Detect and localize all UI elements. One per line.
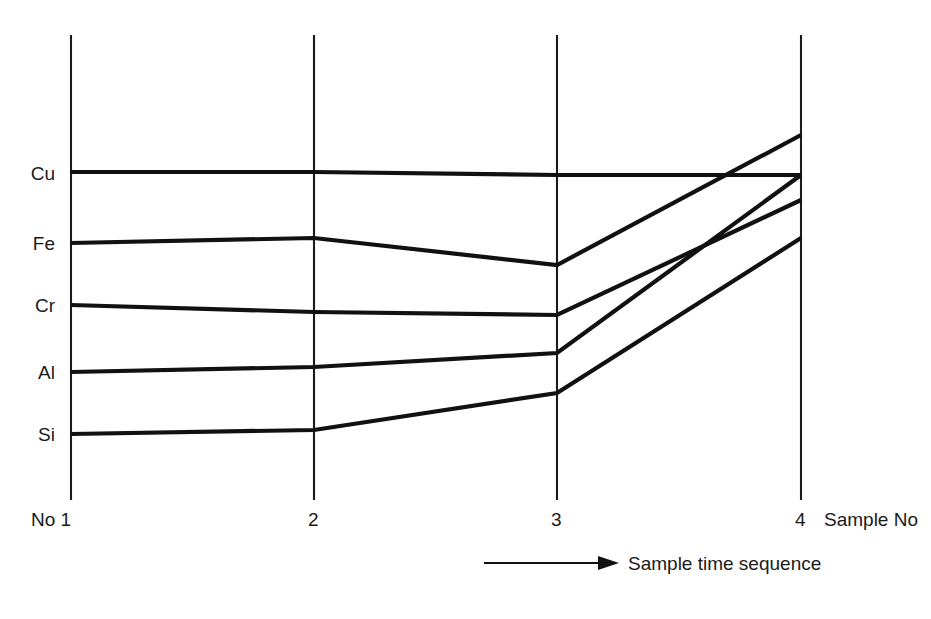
x-axis-title: Sample No xyxy=(824,510,918,529)
time-sequence-arrow xyxy=(484,556,619,570)
chart-figure: Cu Fe Cr Al Si No 1 2 3 4 Sample No Samp… xyxy=(0,0,931,619)
y-label-al: Al xyxy=(9,363,55,382)
x-tick-label-3: 3 xyxy=(551,510,562,529)
y-label-fe: Fe xyxy=(9,234,55,253)
series-line-cu xyxy=(71,172,801,175)
series-line-cr xyxy=(71,200,801,315)
x-tick-label-4: 4 xyxy=(795,510,806,529)
time-sequence-label: Sample time sequence xyxy=(628,554,821,573)
y-label-si: Si xyxy=(9,425,55,444)
chart-plot-area xyxy=(0,0,931,619)
series-line-si xyxy=(71,238,801,434)
y-label-cr: Cr xyxy=(9,296,55,315)
y-label-cu: Cu xyxy=(9,164,55,183)
series-group xyxy=(71,135,801,434)
x-tick-label-1: No 1 xyxy=(31,510,71,529)
x-tick-label-2: 2 xyxy=(308,510,319,529)
series-line-al xyxy=(71,175,801,372)
right-arrow-icon xyxy=(598,556,619,570)
series-line-fe xyxy=(71,135,801,265)
